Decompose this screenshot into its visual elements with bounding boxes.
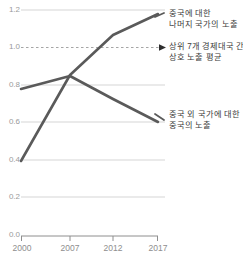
- x-tick-label: 2007: [55, 244, 85, 253]
- annotation-line: 상위 7개 경제대국 간: [169, 42, 243, 53]
- annotation-line: 상호 노출 평균: [169, 53, 243, 64]
- x-tick-label: 2012: [98, 244, 128, 253]
- annotation-leader-icon-bottom: [155, 114, 164, 120]
- line-chart: 1.2 1.0 0.8 0.6 0.4 0.2 0.0: [0, 0, 243, 258]
- reference-line-top7-average: [21, 44, 166, 51]
- x-tick-label: 2000: [7, 244, 37, 253]
- series-line-china-exposure-to-rest-of-world: [21, 76, 158, 122]
- x-axis: [21, 236, 158, 241]
- annotation-line: 나머지 국가의 노출: [169, 20, 238, 31]
- left-arrow-icon: [159, 44, 166, 51]
- gridlines: [21, 10, 165, 197]
- annotation-line: 중국 외 국가에 대한: [169, 110, 240, 121]
- x-tick-label: 2017: [143, 244, 173, 253]
- annotation-rest-of-world-exposure-to-china: 중국에 대한 나머지 국가의 노출: [169, 9, 238, 30]
- annotation-china-exposure-to-rest-of-world: 중국 외 국가에 대한 중국의 노출: [169, 110, 240, 131]
- annotation-top7-mutual-exposure-average: 상위 7개 경제대국 간 상호 노출 평균: [169, 42, 243, 63]
- annotation-line: 중국의 노출: [169, 121, 240, 132]
- annotation-line: 중국에 대한: [169, 9, 238, 20]
